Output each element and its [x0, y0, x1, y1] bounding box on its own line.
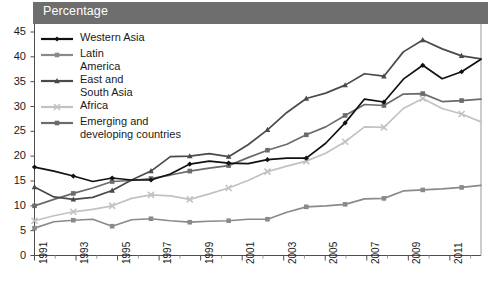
legend-swatch-triangle-icon	[40, 74, 74, 88]
x-axis-tick-label: 2009	[412, 241, 422, 263]
chart-container: Percentage 051015202530354045 1991199319…	[0, 0, 488, 302]
chart-legend: Western AsiaLatin AmericaEast and South …	[40, 31, 190, 141]
legend-item-label: Africa	[80, 99, 108, 112]
y-axis-tick-label: 5	[2, 225, 26, 236]
legend-swatch-cross-icon	[40, 100, 74, 114]
y-axis-tick-label: 30	[2, 101, 26, 112]
x-axis-tick-label: 1993	[80, 241, 90, 263]
legend-swatch-diamond-icon	[40, 32, 74, 46]
x-axis-tick-label: 2005	[329, 241, 339, 263]
legend-item[interactable]: Emerging and developing countries	[40, 115, 190, 140]
y-axis-tick-label: 20	[2, 150, 26, 161]
x-axis-tick-label: 1995	[122, 241, 132, 263]
y-axis-tick-label: 25	[2, 125, 26, 136]
legend-item-label: East and South Asia	[80, 73, 133, 98]
legend-swatch-square-icon	[40, 48, 74, 62]
legend-item-label: Latin America	[80, 47, 120, 72]
x-axis-tick-label: 2001	[246, 241, 256, 263]
legend-item-label: Emerging and developing countries	[80, 115, 181, 140]
x-axis-tick-label: 2003	[288, 241, 298, 263]
y-axis-tick-label: 15	[2, 175, 26, 186]
legend-item-label: Western Asia	[80, 31, 145, 44]
y-axis-tick-label: 45	[2, 26, 26, 37]
y-axis-tick-label: 35	[2, 76, 26, 87]
legend-item[interactable]: Western Asia	[40, 31, 190, 46]
x-axis-tick-label: 1997	[163, 241, 173, 263]
y-axis-tick-label: 10	[2, 200, 26, 211]
legend-item[interactable]: Latin America	[40, 47, 190, 72]
y-axis-tick-label: 40	[2, 51, 26, 62]
legend-item[interactable]: Africa	[40, 99, 190, 114]
x-axis-tick-label: 1991	[39, 241, 49, 263]
y-axis-tick-label: 0	[2, 250, 26, 261]
x-axis-tick-label: 1999	[205, 241, 215, 263]
legend-swatch-square-icon	[40, 116, 74, 130]
x-axis-tick-label: 2007	[371, 241, 381, 263]
legend-item[interactable]: East and South Asia	[40, 73, 190, 98]
x-axis-tick-label: 2011	[454, 242, 464, 264]
